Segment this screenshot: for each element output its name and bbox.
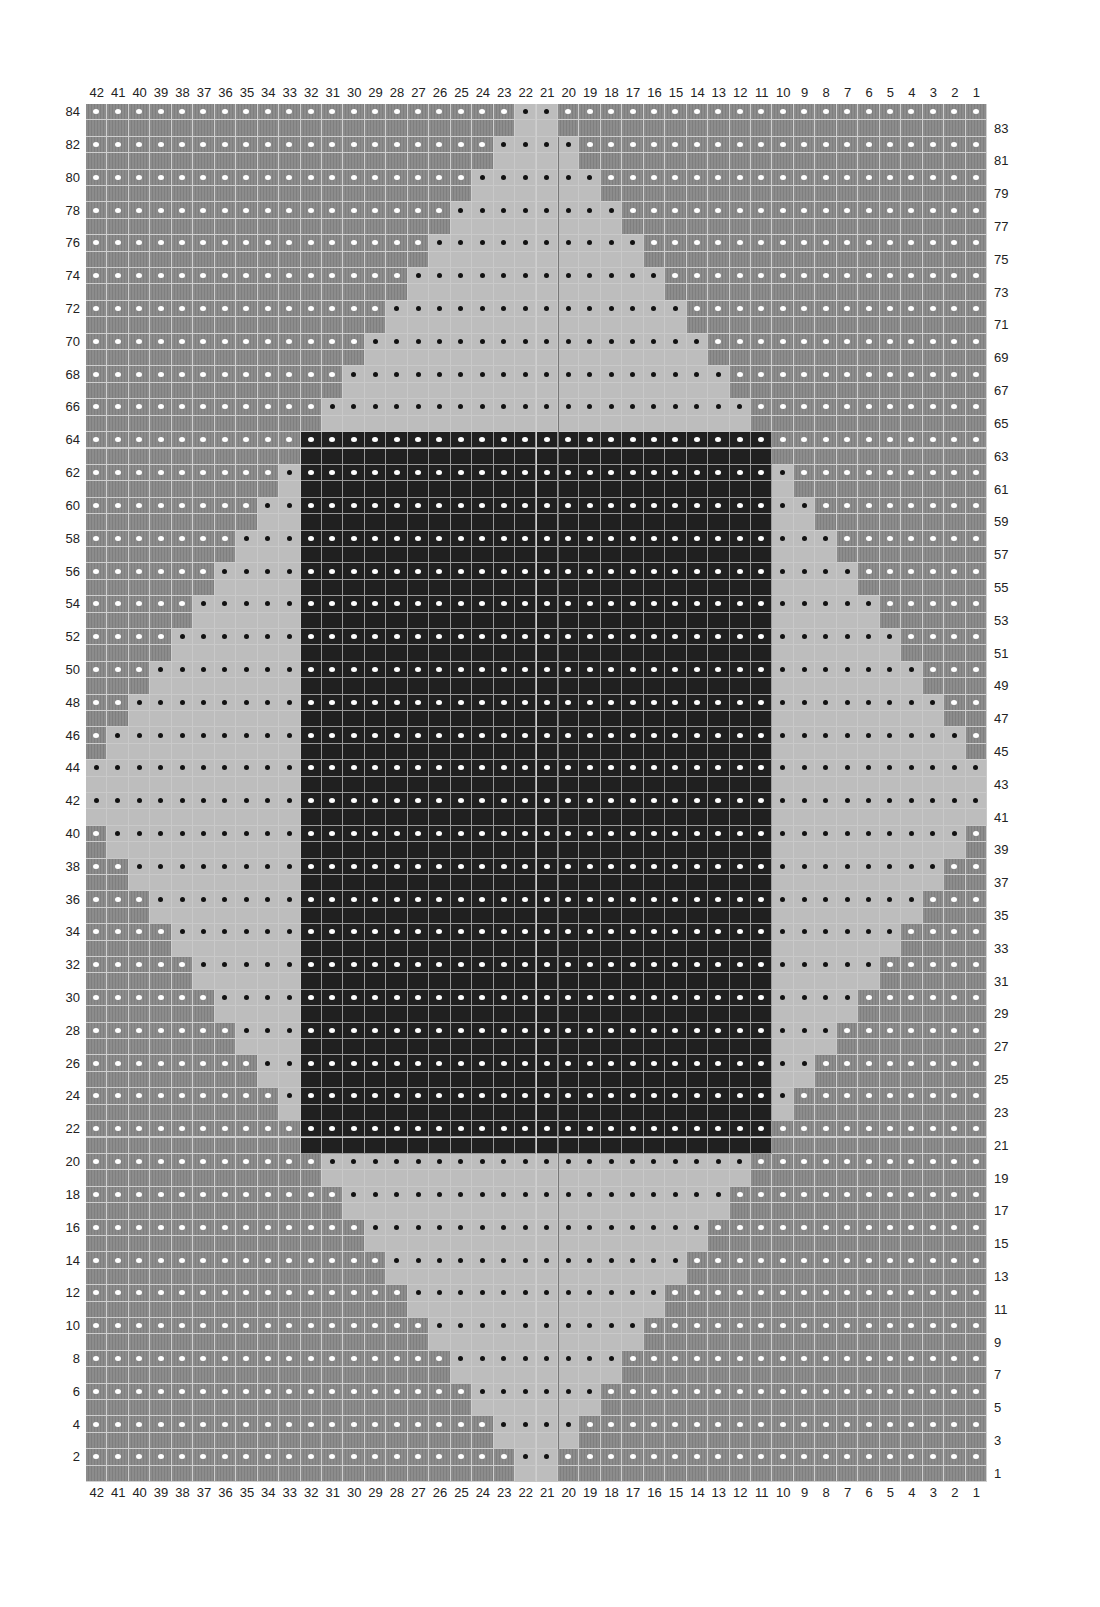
dot-icon bbox=[115, 1258, 121, 1263]
stitch-cell bbox=[901, 1466, 922, 1482]
dot-icon bbox=[265, 1061, 270, 1066]
stitch-cell bbox=[172, 793, 193, 809]
dot-icon bbox=[908, 109, 914, 114]
stitch-cell bbox=[794, 416, 815, 432]
dot-icon bbox=[908, 437, 914, 442]
stitch-cell bbox=[107, 1466, 128, 1482]
dot-icon bbox=[758, 798, 764, 803]
stitch-cell bbox=[537, 334, 558, 350]
stitch-cell bbox=[86, 416, 107, 432]
dot-icon bbox=[758, 700, 764, 705]
stitch-cell bbox=[365, 1039, 386, 1055]
stitch-cell bbox=[215, 662, 236, 678]
stitch-cell bbox=[515, 629, 536, 645]
stitch-cell bbox=[579, 596, 600, 612]
dot-icon bbox=[158, 273, 164, 278]
stitch-cell bbox=[923, 1252, 944, 1268]
stitch-cell bbox=[944, 547, 965, 563]
stitch-cell bbox=[343, 1433, 364, 1449]
stitch-cell bbox=[858, 809, 879, 825]
dot-icon bbox=[908, 503, 914, 508]
dot-icon bbox=[329, 208, 335, 213]
stitch-cell bbox=[622, 793, 643, 809]
dot-icon bbox=[694, 1061, 700, 1066]
stitch-cell bbox=[150, 202, 171, 218]
stitch-cell bbox=[708, 842, 729, 858]
stitch-cell bbox=[966, 432, 987, 448]
stitch-cell bbox=[451, 1236, 472, 1252]
stitch-cell bbox=[944, 1285, 965, 1301]
stitch-cell bbox=[837, 809, 858, 825]
dot-icon bbox=[93, 273, 99, 278]
stitch-cell bbox=[515, 777, 536, 793]
dot-icon bbox=[630, 601, 636, 606]
dot-icon bbox=[394, 667, 400, 672]
stitch-cell bbox=[150, 153, 171, 169]
row-number: 54 bbox=[50, 597, 80, 611]
stitch-cell bbox=[472, 1334, 493, 1350]
dot-icon bbox=[287, 634, 292, 639]
stitch-cell bbox=[451, 842, 472, 858]
dot-icon bbox=[458, 1389, 464, 1394]
stitch-cell bbox=[858, 170, 879, 186]
dot-icon bbox=[951, 1422, 957, 1427]
stitch-cell bbox=[129, 793, 150, 809]
stitch-cell bbox=[386, 1433, 407, 1449]
stitch-cell bbox=[665, 1302, 686, 1318]
dot-icon bbox=[179, 1126, 185, 1131]
dot-icon bbox=[158, 240, 164, 245]
stitch-cell bbox=[408, 186, 429, 202]
stitch-cell bbox=[429, 777, 450, 793]
dot-icon bbox=[501, 864, 507, 869]
column-number: 5 bbox=[879, 86, 901, 100]
dot-icon bbox=[845, 962, 850, 967]
stitch-cell bbox=[537, 399, 558, 415]
stitch-cell bbox=[687, 1105, 708, 1121]
dot-icon bbox=[308, 601, 314, 606]
stitch-cell bbox=[815, 465, 836, 481]
stitch-cell bbox=[751, 219, 772, 235]
stitch-cell bbox=[794, 399, 815, 415]
stitch-cell bbox=[236, 891, 257, 907]
dot-icon bbox=[244, 831, 249, 836]
stitch-cell bbox=[837, 1367, 858, 1383]
stitch-cell bbox=[172, 1088, 193, 1104]
stitch-cell bbox=[258, 284, 279, 300]
dot-icon bbox=[115, 175, 121, 180]
stitch-cell bbox=[150, 645, 171, 661]
dot-icon bbox=[672, 962, 678, 967]
stitch-cell bbox=[386, 186, 407, 202]
stitch-cell bbox=[966, 317, 987, 333]
stitch-cell bbox=[386, 268, 407, 284]
dot-icon bbox=[694, 864, 700, 869]
stitch-cell bbox=[837, 1055, 858, 1071]
stitch-cell bbox=[815, 990, 836, 1006]
stitch-cell bbox=[515, 1088, 536, 1104]
stitch-cell bbox=[837, 941, 858, 957]
stitch-cell bbox=[150, 449, 171, 465]
stitch-cell bbox=[966, 399, 987, 415]
stitch-cell bbox=[343, 416, 364, 432]
stitch-cell bbox=[494, 1466, 515, 1482]
stitch-cell bbox=[386, 120, 407, 136]
dot-icon bbox=[436, 470, 442, 475]
stitch-cell bbox=[451, 120, 472, 136]
stitch-cell bbox=[858, 924, 879, 940]
dot-icon bbox=[308, 175, 314, 180]
dot-icon bbox=[823, 1290, 829, 1295]
dot-icon bbox=[222, 175, 228, 180]
stitch-cell bbox=[858, 1220, 879, 1236]
dot-icon bbox=[908, 372, 914, 377]
dot-icon bbox=[458, 929, 464, 934]
stitch-cell bbox=[837, 137, 858, 153]
stitch-cell bbox=[236, 842, 257, 858]
stitch-cell bbox=[858, 104, 879, 120]
dot-icon bbox=[609, 1356, 614, 1361]
stitch-cell bbox=[279, 383, 300, 399]
stitch-cell bbox=[193, 120, 214, 136]
dot-icon bbox=[244, 700, 249, 705]
dot-icon bbox=[608, 864, 614, 869]
stitch-cell bbox=[343, 350, 364, 366]
stitch-cell bbox=[622, 465, 643, 481]
dot-icon bbox=[973, 1159, 979, 1164]
